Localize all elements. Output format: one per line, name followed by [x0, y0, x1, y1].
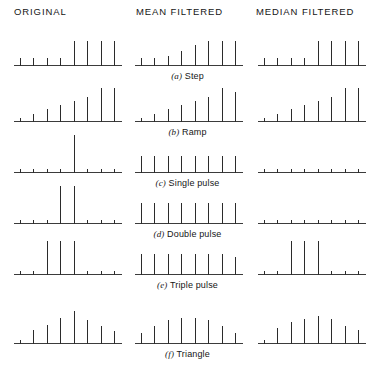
plot-baseline	[14, 274, 122, 275]
stem	[141, 254, 142, 275]
stem	[168, 109, 169, 122]
stem	[87, 41, 88, 66]
stem	[20, 340, 21, 344]
stem	[264, 271, 265, 275]
stem	[358, 88, 359, 122]
stem-plot-ramp-original	[14, 78, 122, 122]
stem	[74, 135, 75, 173]
stem	[87, 169, 88, 173]
stem	[168, 56, 169, 67]
stem	[114, 88, 115, 122]
plot-baseline	[258, 223, 366, 224]
stem	[47, 220, 48, 224]
stem	[345, 41, 346, 66]
stem	[60, 169, 61, 173]
stem	[74, 186, 75, 224]
stem	[181, 105, 182, 122]
stem	[208, 254, 209, 275]
stem-plot-ramp-mean	[135, 78, 243, 122]
stem	[318, 220, 319, 224]
stem	[47, 58, 48, 66]
stem	[331, 220, 332, 224]
stem	[181, 254, 182, 275]
stem	[291, 58, 292, 66]
stem	[154, 326, 155, 344]
stem	[304, 220, 305, 224]
stem	[358, 169, 359, 173]
stem	[291, 322, 292, 344]
plot-baseline	[258, 65, 366, 66]
stem	[331, 271, 332, 275]
stem	[345, 326, 346, 344]
stem	[222, 41, 223, 66]
stem	[20, 169, 21, 173]
stem	[304, 241, 305, 275]
stem	[101, 220, 102, 224]
stem	[154, 156, 155, 173]
stem	[304, 58, 305, 66]
stem	[318, 241, 319, 275]
plot-baseline	[14, 65, 122, 66]
plot-baseline	[135, 274, 243, 275]
stem	[60, 186, 61, 224]
stem-plot-step-median	[258, 22, 366, 66]
stem	[195, 45, 196, 66]
stem	[222, 88, 223, 122]
stem	[277, 271, 278, 275]
stem	[235, 257, 236, 275]
stem	[235, 156, 236, 173]
stem	[87, 220, 88, 224]
stem	[74, 241, 75, 275]
stem	[154, 58, 155, 66]
stem	[291, 241, 292, 275]
stem	[304, 105, 305, 122]
stem	[101, 88, 102, 122]
stem	[277, 220, 278, 224]
stem-plot-step-original	[14, 22, 122, 66]
stem	[235, 203, 236, 224]
stem	[74, 41, 75, 66]
stem	[208, 97, 209, 122]
plot-baseline	[14, 343, 122, 344]
stem	[33, 58, 34, 66]
stem	[358, 271, 359, 275]
stem	[345, 271, 346, 275]
stem	[331, 97, 332, 122]
plot-baseline	[135, 65, 243, 66]
stem	[114, 169, 115, 173]
stem	[114, 220, 115, 224]
stem	[208, 203, 209, 224]
stem	[87, 320, 88, 344]
stem	[222, 326, 223, 344]
stem	[222, 254, 223, 275]
stem	[60, 318, 61, 344]
stem-plot-triangle-original	[14, 300, 122, 344]
stem	[331, 169, 332, 173]
stem	[277, 58, 278, 66]
plot-baseline	[135, 223, 243, 224]
stem	[195, 254, 196, 275]
stem	[264, 340, 265, 344]
stem	[358, 220, 359, 224]
caption-single-pulse: (c) Single pulse	[0, 178, 375, 188]
stem	[47, 325, 48, 344]
stem	[277, 328, 278, 344]
stem	[47, 169, 48, 173]
stem	[154, 114, 155, 122]
stem	[168, 156, 169, 173]
stem	[168, 320, 169, 344]
stem	[20, 58, 21, 66]
stem-plot-triangle-mean	[135, 300, 243, 344]
plot-baseline	[135, 343, 243, 344]
column-header-original: ORIGINAL	[14, 6, 67, 17]
plot-baseline	[258, 343, 366, 344]
stem	[47, 241, 48, 275]
stem	[60, 58, 61, 66]
stem	[101, 326, 102, 344]
stem	[33, 114, 34, 122]
stem	[114, 331, 115, 344]
stem	[154, 203, 155, 224]
plot-baseline	[14, 121, 122, 122]
stem	[101, 41, 102, 66]
stem	[358, 41, 359, 66]
